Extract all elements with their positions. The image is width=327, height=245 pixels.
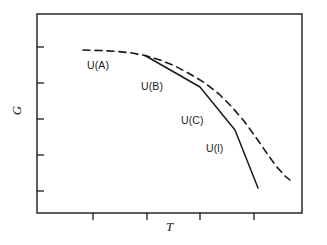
x-axis-ticks	[93, 213, 254, 220]
plot-frame	[37, 14, 302, 213]
y-axis-ticks	[37, 47, 44, 191]
curve-label-u-l: U(l)	[206, 143, 223, 154]
chart-figure: G T U(A) U(B) U(C) U(l)	[0, 0, 327, 245]
curve-label-u-c: U(C)	[181, 115, 204, 126]
plot-border	[37, 14, 302, 213]
curve-label-u-a: U(A)	[87, 60, 109, 71]
curve-label-u-b: U(B)	[141, 81, 163, 92]
x-axis-label: T	[166, 220, 173, 233]
plot-canvas	[0, 0, 327, 245]
y-axis-label: G	[10, 106, 23, 115]
